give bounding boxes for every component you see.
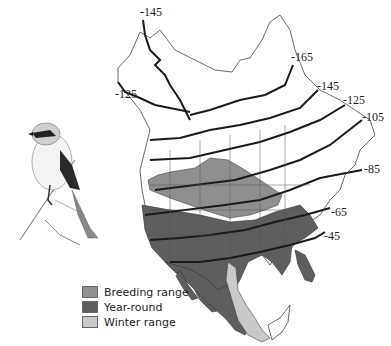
- florida-region: [295, 250, 315, 282]
- legend-label: Breeding range: [104, 286, 189, 299]
- legend-item-breeding: Breeding range: [82, 285, 189, 299]
- contour-label-5: -125: [343, 94, 365, 106]
- contour-label-6: -105: [362, 111, 384, 123]
- north-america-map: [0, 0, 391, 346]
- year-round-swatch: [82, 301, 98, 313]
- breeding-swatch: [82, 286, 98, 298]
- range-map: -145 -125 -165 -145 -125 -105 -85 -65 -4…: [0, 0, 391, 346]
- contour-label-4: -145: [317, 80, 339, 92]
- contour-label-8: -65: [331, 206, 347, 218]
- legend-item-winter: Winter range: [82, 315, 189, 329]
- winter-swatch: [82, 316, 98, 328]
- central-america-region: [268, 305, 290, 340]
- legend-label: Winter range: [104, 316, 176, 329]
- legend-label: Year-round: [104, 301, 163, 314]
- contour-label-9: -45: [324, 230, 340, 242]
- legend-item-year-round: Year-round: [82, 300, 189, 314]
- contour-label-1: -145: [140, 6, 162, 18]
- winter-range-region: [226, 262, 270, 342]
- contour-label-3: -165: [291, 51, 313, 63]
- contour-label-7: -85: [364, 163, 380, 175]
- contour-label-2: -125: [115, 88, 137, 100]
- map-legend: Breeding range Year-round Winter range: [82, 285, 189, 330]
- shrike-bird-illustration: [20, 123, 98, 245]
